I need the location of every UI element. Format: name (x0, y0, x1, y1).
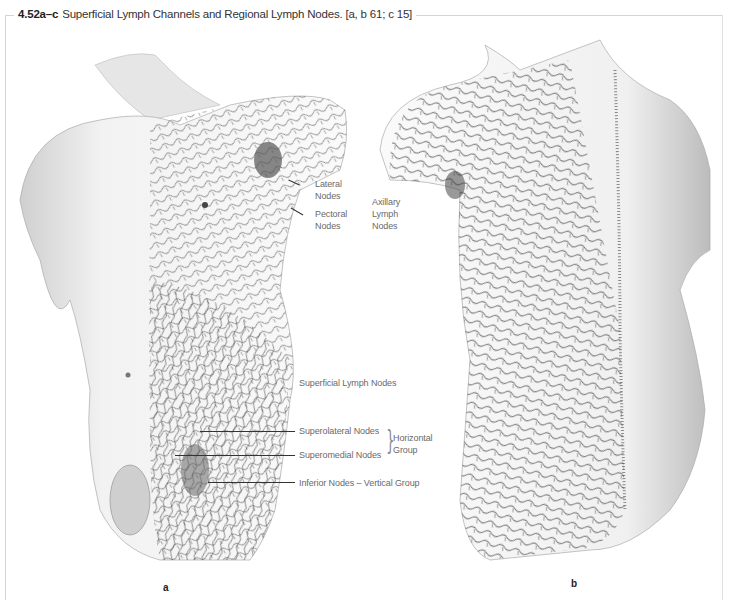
label-superomedial-nodes: Superomedial Nodes (299, 449, 381, 461)
label-horizontal-group: Horizontal Group (393, 432, 433, 456)
figure-number: 4.52a–c (18, 8, 58, 20)
label-superficial-lymph-nodes: Superficial Lymph Nodes (299, 377, 396, 389)
panel-label-b: b (571, 578, 577, 589)
leader-superolateral-nodes (200, 431, 295, 432)
figure-title: Superficial Lymph Channels and Regional … (62, 8, 412, 20)
label-lateral-nodes: Lateral Nodes (315, 178, 342, 202)
leader-inferior-nodes (208, 482, 295, 483)
label-inferior-nodes-vertical-group: Inferior Nodes – Vertical Group (299, 477, 419, 489)
panel-label-a: a (163, 582, 169, 593)
label-superolateral-nodes: Superolateral Nodes (299, 425, 379, 437)
leader-superomedial-nodes (175, 455, 295, 456)
anterior-torso-illustration (0, 30, 370, 570)
figure-caption: 4.52a–cSuperficial Lymph Channels and Re… (14, 8, 416, 20)
posterior-torso-illustration (370, 30, 730, 570)
label-axillary-lymph-nodes: Axillary Lymph Nodes (372, 196, 400, 232)
label-pectoral-nodes: Pectoral Nodes (315, 208, 347, 232)
